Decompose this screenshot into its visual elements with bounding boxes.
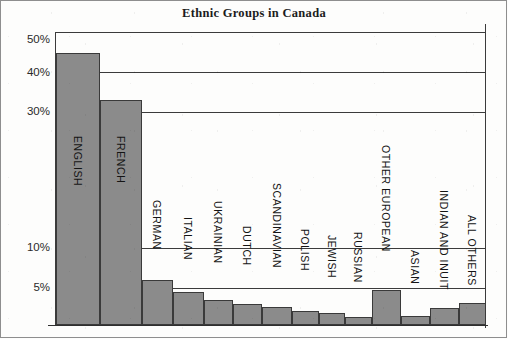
- bar-german: [142, 280, 173, 325]
- bar-other-european: [372, 290, 401, 325]
- bar-label-italian: ITALIAN: [183, 217, 194, 260]
- bar-polish: [292, 311, 319, 325]
- ytick-label-40: 40%: [8, 66, 50, 78]
- bar-indian-and-inuit: [430, 308, 459, 325]
- bar-label-ukrainian: UKRAINIAN: [213, 201, 224, 264]
- bar-label-jewish: JEWISH: [326, 235, 337, 278]
- bar-dutch: [233, 304, 262, 325]
- bar-french: [100, 100, 142, 325]
- chart-page: Ethnic Groups in Canada 50% 40% 30% 10% …: [0, 0, 508, 339]
- bar-label-asian: ASIAN: [410, 250, 421, 285]
- bar-all-others: [459, 303, 486, 325]
- bar-asian: [401, 316, 430, 325]
- ytick-label-50: 50%: [8, 33, 50, 45]
- bar-label-russian: RUSSIAN: [353, 232, 364, 283]
- bar-label-dutch: DUTCH: [242, 226, 253, 266]
- bar-italian: [173, 292, 204, 325]
- ytick-label-10: 10%: [8, 241, 50, 253]
- bar-english: [56, 53, 100, 325]
- ytick-label-30: 30%: [8, 105, 50, 117]
- bar-label-indian-and-inuit: INDIAN AND INUIT: [439, 190, 450, 290]
- right-axis-line: [485, 24, 486, 328]
- x-axis-baseline: [48, 325, 488, 326]
- bar-jewish: [319, 313, 345, 325]
- ytick-label-5: 5%: [8, 281, 50, 293]
- bar-label-scandinavian: SCANDINAVIAN: [271, 183, 282, 268]
- gridline-40: [55, 72, 486, 73]
- bar-scandinavian: [262, 307, 292, 325]
- bar-russian: [345, 317, 372, 325]
- bar-label-all-others: ALL OTHERS: [467, 215, 478, 286]
- bar-label-french: FRENCH: [115, 136, 126, 183]
- gridline-50: [55, 32, 486, 33]
- bar-label-english: ENGLISH: [72, 136, 83, 186]
- bar-label-polish: POLISH: [300, 229, 311, 271]
- bar-ukrainian: [204, 300, 233, 325]
- bar-label-other-european: OTHER EUROPEAN: [381, 145, 392, 252]
- plot-area: 50% 40% 30% 10% 5% ENGLISHFRENCHGERMANIT…: [0, 0, 508, 339]
- bar-label-german: GERMAN: [152, 200, 163, 250]
